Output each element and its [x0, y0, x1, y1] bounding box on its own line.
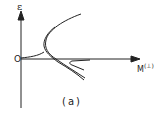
- curve-low-branch: [21, 52, 44, 58]
- y-axis-arrow: [18, 11, 24, 20]
- x-axis-label-superscript: (⊥): [144, 62, 154, 69]
- x-axis-label-base: M: [137, 65, 144, 74]
- curve-right-branch: [70, 60, 90, 70]
- caption: (a): [62, 97, 82, 106]
- diagram: ε O M(⊥) (a): [0, 0, 166, 127]
- x-axis-label: M(⊥): [137, 61, 154, 74]
- origin-label: O: [14, 55, 21, 64]
- y-axis-label: ε: [17, 2, 22, 11]
